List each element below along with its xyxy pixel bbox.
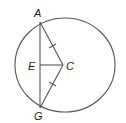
label-g: G <box>34 110 43 122</box>
radius-cg <box>40 65 63 108</box>
geometry-diagram: A E C G <box>0 0 126 123</box>
label-a: A <box>33 7 41 19</box>
radius-ac <box>40 22 63 65</box>
label-c: C <box>66 60 74 72</box>
label-e: E <box>28 60 36 72</box>
